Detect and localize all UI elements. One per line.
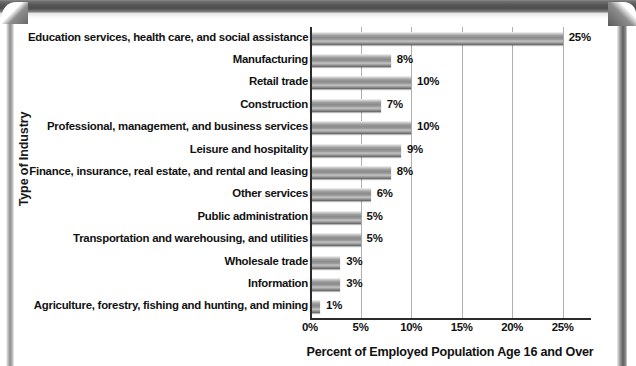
bar-value-label: 3% bbox=[346, 277, 362, 289]
bar-value-label: 25% bbox=[569, 31, 591, 43]
category-label: Other services bbox=[28, 187, 308, 199]
category-label: Manufacturing bbox=[28, 53, 308, 65]
category-label: Professional, management, and business s… bbox=[28, 120, 308, 132]
scan-frame-left bbox=[6, 10, 14, 366]
bar bbox=[310, 144, 401, 157]
bar bbox=[310, 278, 340, 291]
scan-frame-top-highlight bbox=[0, 13, 636, 20]
category-label: Education services, health care, and soc… bbox=[28, 31, 308, 43]
scan-frame-right bbox=[617, 8, 627, 366]
bar bbox=[310, 188, 371, 201]
bar bbox=[310, 76, 411, 89]
gridline bbox=[563, 27, 564, 318]
plot-area: 25%8%10%7%10%9%8%6%5%5%3%3%1% bbox=[310, 27, 588, 318]
bar bbox=[310, 166, 391, 179]
category-label: Construction bbox=[28, 98, 308, 110]
bar bbox=[310, 300, 320, 313]
bar-value-label: 5% bbox=[367, 210, 383, 222]
x-axis-tick-label: 5% bbox=[353, 321, 369, 333]
chart-screenshot: Type of Industry Education services, hea… bbox=[0, 0, 636, 366]
bar-value-label: 3% bbox=[346, 255, 362, 267]
bar bbox=[310, 256, 340, 269]
bar bbox=[310, 233, 361, 246]
scan-frame-top bbox=[0, 0, 636, 14]
x-axis-tick-label: 20% bbox=[501, 321, 523, 333]
bar bbox=[310, 211, 361, 224]
y-axis-line bbox=[310, 27, 312, 319]
category-label: Transportation and warehousing, and util… bbox=[28, 232, 308, 244]
horizontal-bar-chart: Type of Industry Education services, hea… bbox=[0, 0, 636, 366]
bar-value-label: 10% bbox=[417, 75, 439, 87]
bar-value-label: 8% bbox=[397, 165, 413, 177]
bar bbox=[310, 32, 563, 45]
category-label: Retail trade bbox=[28, 75, 308, 87]
bar bbox=[310, 99, 381, 112]
gridline bbox=[512, 27, 513, 318]
category-label: Wholesale trade bbox=[28, 255, 308, 267]
x-axis-tick-label: 15% bbox=[451, 321, 473, 333]
category-label: Leisure and hospitality bbox=[28, 143, 308, 155]
bar-value-label: 8% bbox=[397, 53, 413, 65]
category-label: Agriculture, forestry, fishing and hunti… bbox=[28, 299, 308, 311]
bar bbox=[310, 121, 411, 134]
gridline bbox=[462, 27, 463, 318]
x-axis-tick-label: 10% bbox=[400, 321, 422, 333]
category-label: Information bbox=[28, 277, 308, 289]
bar-value-label: 10% bbox=[417, 120, 439, 132]
category-label: Public administration bbox=[28, 210, 308, 222]
x-axis-tick-label: 0% bbox=[302, 321, 318, 333]
bar-value-label: 6% bbox=[377, 187, 393, 199]
bar bbox=[310, 54, 391, 67]
bar-value-label: 7% bbox=[387, 98, 403, 110]
bar-value-label: 1% bbox=[326, 299, 342, 311]
scan-frame-corner-left bbox=[2, 2, 28, 24]
bar-value-label: 5% bbox=[367, 232, 383, 244]
x-axis-title: Percent of Employed Population Age 16 an… bbox=[300, 345, 600, 359]
x-axis-tick-label: 25% bbox=[552, 321, 574, 333]
scan-frame-corner-right bbox=[608, 2, 636, 26]
bar-value-label: 9% bbox=[407, 143, 423, 155]
category-label-group: Education services, health care, and soc… bbox=[28, 27, 308, 318]
x-axis-line bbox=[310, 318, 591, 320]
category-label: Finance, insurance, real estate, and ren… bbox=[28, 165, 308, 177]
